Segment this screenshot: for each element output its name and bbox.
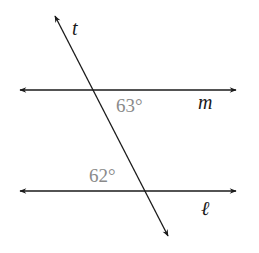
diagram-canvas: t m ℓ 63° 62° <box>0 0 259 253</box>
transversal-t <box>55 16 168 236</box>
label-m: m <box>198 91 212 113</box>
angle-label-62: 62° <box>89 165 116 186</box>
angle-label-63: 63° <box>116 95 143 116</box>
label-l: ℓ <box>201 197 210 219</box>
label-t: t <box>72 17 78 39</box>
